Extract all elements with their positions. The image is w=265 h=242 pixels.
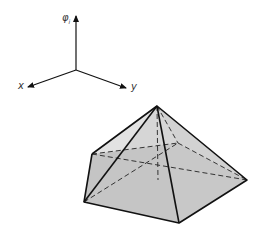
- diagram-canvas: [0, 0, 265, 242]
- x-axis: [28, 70, 76, 87]
- y-axis: [76, 70, 126, 88]
- y-axis-label: y: [131, 81, 137, 92]
- phi-axis-label: φi: [62, 12, 70, 25]
- coordinate-axes: [28, 16, 126, 88]
- x-axis-label: x: [18, 80, 24, 91]
- pyramid: [84, 106, 247, 223]
